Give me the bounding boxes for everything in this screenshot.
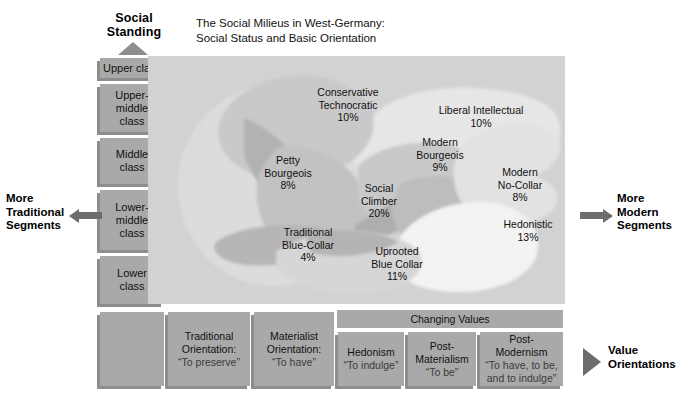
milieu-chart-panel: Conservative Technocratic 10% Liberal In… <box>148 56 565 304</box>
more-traditional-segments-label: More Traditional Segments <box>6 192 82 233</box>
title-line-2: Social Status and Basic Orientation <box>196 31 496 46</box>
class-label-line2: class <box>119 280 144 293</box>
milieu-blobs <box>148 56 565 304</box>
class-label-line1: Lower- <box>115 201 149 214</box>
page-title: The Social Milieus in West-Germany: Soci… <box>196 16 496 46</box>
right-label-line1: More <box>617 192 677 206</box>
vo-name-line1: Hedonism <box>347 346 394 359</box>
changing-values-label: Changing Values <box>410 313 489 325</box>
more-modern-segments-label: More Modern Segments <box>617 192 677 233</box>
changing-values-header: Changing Values <box>337 308 565 328</box>
bottom-left-spacer <box>100 310 166 386</box>
right-label-line2: Modern <box>617 206 677 220</box>
value-orientation-materialist[interactable]: Materialist Orientation: “To have” <box>254 310 336 386</box>
class-label-line1: Middle <box>116 148 148 161</box>
value-orientations-line2: Orientations <box>608 358 678 372</box>
social-standing-line2: Standing <box>96 26 172 40</box>
up-arrow-icon <box>118 42 148 55</box>
value-orientation-post-modernism[interactable]: Post- Modernism “To have, to be, and to … <box>480 330 565 386</box>
left-label-line3: Segments <box>6 219 82 233</box>
vo-name-line2: Materialism <box>415 353 469 366</box>
value-orientations-label: Value Orientations <box>608 344 678 371</box>
vo-name-line2: Orientation: <box>267 343 321 356</box>
vo-quote-line1: “To have, to be, <box>485 359 557 372</box>
vo-name-line1: Materialist <box>270 330 318 343</box>
value-orientation-hedonism[interactable]: Hedonism “To indulge” <box>338 330 406 386</box>
vo-name-line1: Post- <box>430 340 455 353</box>
triangle-right-icon <box>583 348 601 376</box>
left-label-line1: More <box>6 192 82 206</box>
arrow-right-icon <box>580 212 604 219</box>
bottom-divider <box>0 398 668 400</box>
vo-name-line2: Modernism <box>496 346 548 359</box>
vo-quote-line1: “To preserve” <box>178 356 240 369</box>
vo-quote-line1: “To be” <box>426 366 459 379</box>
vo-quote-line2: and to indulge” <box>487 372 556 385</box>
value-orientation-post-materialism[interactable]: Post- Materialism “To be” <box>408 330 478 386</box>
left-label-line2: Traditional <box>6 206 82 220</box>
class-label-line2: middle <box>116 102 148 115</box>
value-orientations-line1: Value <box>608 344 678 358</box>
vo-quote-line1: “To have” <box>272 356 316 369</box>
class-label-line3: class <box>119 115 144 128</box>
class-label-line1: Upper- <box>115 89 149 102</box>
right-label-line3: Segments <box>617 219 677 233</box>
social-standing-axis-title: Social Standing <box>96 12 172 39</box>
class-label-line1: Lower <box>117 267 147 280</box>
vo-quote-line1: “To indulge” <box>344 359 399 372</box>
vo-name-line2: Orientation: <box>182 343 236 356</box>
class-label-line2: middle <box>116 214 148 227</box>
social-standing-line1: Social <box>96 12 172 26</box>
class-label-line3: class <box>119 227 144 240</box>
vo-name-line1: Post- <box>509 333 534 346</box>
class-label-line2: class <box>119 161 144 174</box>
vo-name-line1: Traditional <box>185 330 234 343</box>
title-line-1: The Social Milieus in West-Germany: <box>196 16 496 31</box>
value-orientation-traditional[interactable]: Traditional Orientation: “To preserve” <box>168 310 252 386</box>
